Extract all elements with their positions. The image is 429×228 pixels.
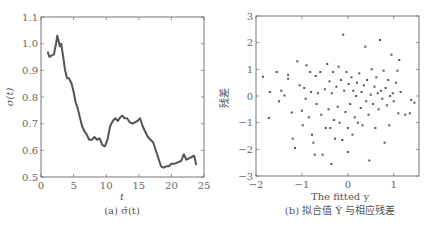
scatter-point bbox=[335, 86, 337, 88]
y-tick-label: 0.7 bbox=[22, 118, 38, 129]
scatter-point bbox=[348, 83, 350, 85]
scatter-point bbox=[374, 86, 376, 88]
scatter-point bbox=[379, 39, 381, 41]
scatter-point bbox=[308, 116, 310, 118]
y-tick-label: 2 bbox=[247, 37, 253, 48]
scatter-point bbox=[362, 124, 364, 126]
scatter-point bbox=[368, 160, 370, 162]
scatter-point bbox=[334, 138, 336, 140]
residual-points bbox=[262, 34, 416, 165]
x-axis-label-a: t bbox=[120, 191, 125, 202]
scatter-point bbox=[301, 110, 303, 112]
x-tick-label: 1 bbox=[391, 179, 397, 190]
figure: 0.50.60.70.80.91.01.1 0510152025 σ(t) t … bbox=[0, 0, 429, 228]
scatter-point bbox=[378, 108, 380, 110]
scatter-point bbox=[322, 154, 324, 156]
scatter-point bbox=[303, 87, 305, 89]
scatter-point bbox=[400, 91, 402, 93]
scatter-point bbox=[352, 90, 354, 92]
scatter-point bbox=[294, 147, 296, 149]
scatter-point bbox=[338, 66, 340, 68]
scatter-point bbox=[333, 119, 335, 121]
scatter-point bbox=[343, 90, 345, 92]
scatter-point bbox=[387, 79, 389, 81]
scatter-point bbox=[296, 60, 298, 62]
scatter-point bbox=[306, 64, 308, 66]
scatter-point bbox=[330, 163, 332, 165]
scatter-point bbox=[361, 91, 363, 93]
scatter-point bbox=[392, 92, 394, 94]
scatter-point bbox=[311, 134, 313, 136]
x-tick-label: 0 bbox=[345, 179, 351, 190]
scatter-point bbox=[337, 106, 339, 108]
scatter-point bbox=[312, 142, 314, 144]
scatter-point bbox=[342, 34, 344, 36]
y-tick-label: 0 bbox=[247, 91, 253, 102]
scatter-point bbox=[397, 112, 399, 114]
scatter-point bbox=[371, 68, 373, 70]
scatter-point bbox=[409, 112, 411, 114]
panel-b-scatter-chart: −3−2−10123 −2−101 残差 The fitted y (b) 拟合… bbox=[218, 11, 419, 217]
plot-frame-a bbox=[41, 17, 204, 177]
y-tick-label: −1 bbox=[238, 117, 253, 128]
scatter-point bbox=[280, 90, 282, 92]
scatter-point bbox=[339, 122, 341, 124]
y-tick-label: 0.5 bbox=[22, 172, 38, 183]
scatter-point bbox=[347, 151, 349, 153]
scatter-point bbox=[385, 87, 387, 89]
scatter-point bbox=[347, 127, 349, 129]
scatter-point bbox=[315, 75, 317, 77]
scatter-point bbox=[365, 100, 367, 102]
scatter-point bbox=[305, 98, 307, 100]
scatter-point bbox=[276, 71, 278, 73]
scatter-point bbox=[413, 102, 415, 104]
scatter-point bbox=[268, 117, 270, 119]
scatter-point bbox=[370, 94, 372, 96]
scatter-point bbox=[355, 95, 357, 97]
caption-b: (b) 拟合值 Ŷ 与相应残差 bbox=[285, 204, 395, 216]
scatter-point bbox=[389, 95, 391, 97]
y-axis-label-a: σ(t) bbox=[4, 88, 15, 107]
scatter-point bbox=[404, 114, 406, 116]
scatter-point bbox=[383, 70, 385, 72]
scatter-point bbox=[368, 114, 370, 116]
scatter-point bbox=[395, 82, 397, 84]
y-axis-label-b: 残差 bbox=[218, 88, 230, 108]
scatter-point bbox=[291, 112, 293, 114]
scatter-point bbox=[269, 91, 271, 93]
scatter-point bbox=[324, 88, 326, 90]
scatter-point bbox=[351, 134, 353, 136]
scatter-point bbox=[351, 76, 353, 78]
y-tick-label: 0.6 bbox=[22, 145, 38, 156]
scatter-point bbox=[320, 114, 322, 116]
scatter-point bbox=[302, 124, 304, 126]
scatter-point bbox=[388, 124, 390, 126]
scatter-point bbox=[396, 70, 398, 72]
y-axis-ticks-a: 0.50.60.70.80.91.01.1 bbox=[22, 12, 204, 183]
y-tick-label: 1.0 bbox=[22, 38, 38, 49]
x-tick-label: −1 bbox=[295, 179, 310, 190]
scatter-point bbox=[346, 71, 348, 73]
scatter-point bbox=[326, 63, 328, 65]
x-axis-ticks-a: 0510152025 bbox=[38, 17, 211, 191]
scatter-point bbox=[332, 71, 334, 73]
scatter-point bbox=[398, 59, 400, 61]
scatter-point bbox=[299, 84, 301, 86]
y-tick-label: 3 bbox=[247, 11, 253, 22]
scatter-point bbox=[341, 139, 343, 141]
scatter-point bbox=[357, 122, 359, 124]
y-tick-label: −2 bbox=[238, 144, 253, 155]
scatter-point bbox=[329, 80, 331, 82]
y-tick-label: 0.8 bbox=[22, 92, 38, 103]
scatter-point bbox=[366, 79, 368, 81]
scatter-point bbox=[393, 100, 395, 102]
sigma-line bbox=[48, 36, 197, 168]
scatter-point bbox=[380, 90, 382, 92]
scatter-point bbox=[292, 138, 294, 140]
x-axis-ticks-b: −2−101 bbox=[249, 16, 397, 190]
scatter-point bbox=[328, 108, 330, 110]
scatter-point bbox=[386, 104, 388, 106]
scatter-point bbox=[314, 154, 316, 156]
scatter-point bbox=[284, 95, 286, 97]
scatter-point bbox=[287, 74, 289, 76]
